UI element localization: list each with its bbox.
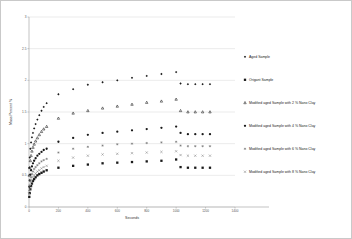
point-3-21 [175,125,177,127]
series-3 [28,125,211,187]
point-4-21 [175,141,177,143]
point-1-0 [28,196,30,198]
point-4-7 [34,166,36,168]
point-4-13 [57,151,59,153]
point-4-6 [33,168,35,170]
point-0-11 [43,106,45,108]
point-5-11 [43,166,45,168]
point-0-25 [201,83,203,85]
point-4-9 [38,162,40,164]
legend-marker-5 [244,171,246,173]
point-0-26 [209,83,211,85]
point-5-18 [131,152,133,154]
point-2-9 [38,133,40,135]
point-1-26 [209,167,211,169]
point-5-20 [160,151,162,153]
plot-area: 00.511.522.530200400600800100012001400Se… [1,1,352,239]
y-tick-label-1: 0.5 [22,173,27,177]
point-5-8 [36,170,38,172]
point-0-4 [31,136,33,138]
series-2 [28,98,211,176]
point-5-17 [116,153,118,155]
legend-item-3[interactable]: Modified aged Sample with 4 % Nano Clay [244,124,316,128]
point-1-15 [87,163,89,165]
point-2-4 [31,150,33,152]
point-2-2 [29,159,31,161]
point-3-12 [46,148,48,150]
point-1-25 [201,167,203,169]
point-5-13 [57,160,59,162]
legend-item-1[interactable]: Origant Sample [244,78,274,82]
point-3-3 [30,169,32,171]
point-4-5 [32,170,34,172]
point-0-9 [38,114,40,116]
x-tick-label-2: 400 [85,209,90,213]
point-0-19 [146,75,148,77]
point-2-11 [43,128,45,130]
point-3-17 [116,130,118,132]
x-tick-label-6: 1200 [202,209,209,213]
point-5-12 [46,165,48,167]
point-4-17 [116,143,118,145]
point-0-22 [179,82,181,84]
point-3-13 [57,141,59,143]
point-2-12 [45,125,47,127]
point-4-14 [72,148,74,150]
point-2-13 [57,117,59,119]
point-2-16 [101,107,103,109]
point-3-7 [34,157,36,159]
point-1-12 [46,169,48,171]
point-5-14 [72,156,74,158]
x-tick-label-5: 1000 [173,209,180,213]
point-2-17 [116,105,118,107]
point-5-16 [101,153,103,155]
point-3-26 [209,133,211,135]
point-4-10 [40,160,42,162]
point-5-19 [146,151,148,153]
point-0-15 [87,84,89,86]
y-axis-title: Mass Percent % [9,98,13,125]
point-4-26 [209,145,211,147]
point-1-14 [72,165,74,167]
point-3-24 [194,133,196,135]
point-4-11 [43,159,45,161]
y-tick-label-3: 1.5 [22,110,27,114]
point-2-14 [72,112,74,114]
point-0-6 [33,127,35,129]
point-2-10 [40,130,42,132]
point-4-16 [101,144,103,146]
legend-marker-0 [244,56,246,58]
point-2-22 [179,109,181,111]
point-0-21 [175,71,177,73]
point-3-22 [179,132,181,134]
point-4-24 [194,145,196,147]
point-3-20 [160,127,162,129]
point-5-26 [209,155,211,157]
point-0-8 [36,118,38,120]
legend-label-0: Aged Sample [249,55,270,59]
point-5-23 [187,155,189,157]
point-1-18 [131,161,133,163]
point-0-2 [29,148,31,150]
legend-marker-1 [244,79,246,81]
legend-item-5[interactable]: Modified aged Sample with 8 % Nano Clay [244,170,316,174]
point-3-4 [31,165,33,167]
y-tick-label-2: 1 [25,142,27,146]
legend-item-2[interactable]: Modified aged Sample with 2 % Nano Clay [244,101,316,105]
series-5 [28,150,211,195]
x-tick-label-4: 800 [144,209,149,213]
point-3-19 [146,128,148,130]
x-tick-label-0: 0 [28,209,30,213]
point-0-3 [30,141,32,143]
legend-item-0[interactable]: Aged Sample [244,55,270,59]
point-0-12 [46,102,48,104]
point-3-23 [187,133,189,135]
point-2-19 [146,101,148,103]
point-3-6 [33,160,35,162]
point-4-23 [187,145,189,147]
point-1-17 [116,162,118,164]
point-1-19 [146,160,148,162]
point-0-23 [187,83,189,85]
y-tick-label-5: 2.5 [22,47,27,51]
legend-item-4[interactable]: Modified aged Sample with 6 % Nano Clay [244,147,316,151]
